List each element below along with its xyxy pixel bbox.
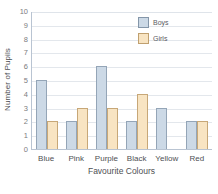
legend-swatch-girls-icon (138, 33, 149, 44)
y-axis-tick-labels: 109876543210 (14, 12, 30, 150)
bar-chart: Number of Pupils 109876543210 Boys Girls… (0, 0, 218, 194)
x-axis-tick-label: Black (122, 152, 152, 165)
legend: Boys Girls (138, 15, 200, 47)
y-axis-tick-label: 2 (24, 119, 28, 127)
bar-pink-boys[interactable] (66, 121, 77, 149)
bar-red-girls[interactable] (197, 121, 208, 149)
y-axis-tick-label: 9 (24, 22, 28, 30)
legend-item-boys[interactable]: Boys (138, 15, 200, 29)
legend-item-girls[interactable]: Girls (138, 31, 200, 45)
bar-group (32, 12, 62, 149)
legend-label-boys: Boys (153, 19, 169, 26)
bar-red-boys[interactable] (186, 121, 197, 149)
x-axis-tick-label: Pink (61, 152, 91, 165)
bar-yellow-boys[interactable] (156, 108, 167, 149)
bar-black-boys[interactable] (126, 121, 137, 149)
bar-blue-boys[interactable] (36, 80, 47, 149)
bar-purple-girls[interactable] (107, 108, 118, 149)
y-axis-tick-label: 5 (24, 77, 28, 85)
y-axis-tick-label: 10 (20, 8, 28, 16)
x-axis-title: Favourite Colours (31, 166, 212, 176)
bar-group (62, 12, 92, 149)
y-axis-title-label: Number of Pupils (3, 48, 12, 111)
bar-pink-girls[interactable] (77, 108, 88, 149)
y-axis-title: Number of Pupils (0, 0, 14, 158)
x-axis-tick-labels: BluePinkPurpleBlackYellowRed (31, 152, 212, 165)
legend-swatch-boys-icon (138, 17, 149, 28)
x-axis-tick-label: Red (182, 152, 212, 165)
x-axis-tick-label: Yellow (152, 152, 182, 165)
bar-purple-boys[interactable] (96, 66, 107, 149)
y-axis-tick-label: 4 (24, 91, 28, 99)
legend-label-girls: Girls (153, 35, 167, 42)
x-axis-tick-label: Purple (91, 152, 121, 165)
y-axis-tick-label: 0 (24, 146, 28, 154)
x-axis-tick-label: Blue (31, 152, 61, 165)
y-axis-tick-label: 3 (24, 105, 28, 113)
y-axis-tick-label: 7 (24, 50, 28, 58)
y-axis-tick-label: 6 (24, 63, 28, 71)
bar-blue-girls[interactable] (47, 121, 58, 149)
bar-group (92, 12, 122, 149)
y-axis-tick-label: 8 (24, 36, 28, 44)
bar-black-girls[interactable] (137, 94, 148, 149)
y-axis-tick-label: 1 (24, 132, 28, 140)
